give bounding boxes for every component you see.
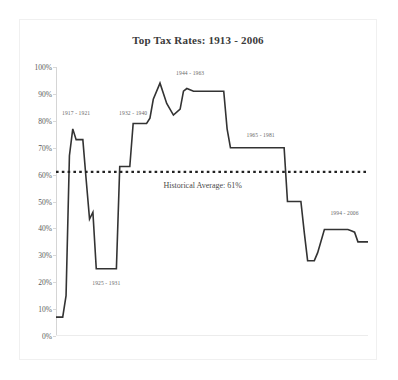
era-annotation: 1944 - 1963	[176, 70, 204, 76]
era-annotation: 1965 - 1981	[247, 132, 275, 138]
page-title: Top Tax Rates: 1913 - 2006	[20, 34, 376, 46]
y-axis-tick-label: 80%	[38, 116, 52, 125]
era-annotation: 1994 - 2006	[330, 210, 358, 216]
y-axis-tick-label: 70%	[38, 143, 52, 152]
plot-area: 100%90%80%70%60%50%40%30%20%10%0% 1917 -…	[56, 67, 368, 336]
y-axis-tick-mark	[53, 336, 56, 337]
y-axis-tick-label: 40%	[38, 224, 52, 233]
y-axis-tick-label: 10%	[38, 305, 52, 314]
y-axis-tick-label: 0%	[42, 332, 52, 341]
y-axis-tick-label: 50%	[38, 197, 52, 206]
era-annotation: 1925 - 1931	[92, 280, 120, 286]
y-axis-tick-label: 90%	[38, 89, 52, 98]
y-axis-tick-label: 20%	[38, 278, 52, 287]
y-axis-tick-label: 60%	[38, 170, 52, 179]
era-annotation: 1932 - 1940	[119, 110, 147, 116]
chart-card: Top Tax Rates: 1913 - 2006 100%90%80%70%…	[19, 19, 377, 360]
series-line-chart	[56, 67, 368, 336]
historical-average-label: Historical Average: 61%	[163, 181, 242, 190]
y-axis-tick-label: 30%	[38, 251, 52, 260]
y-axis-tick-label: 100%	[35, 63, 53, 72]
era-annotation: 1917 - 1921	[62, 110, 90, 116]
